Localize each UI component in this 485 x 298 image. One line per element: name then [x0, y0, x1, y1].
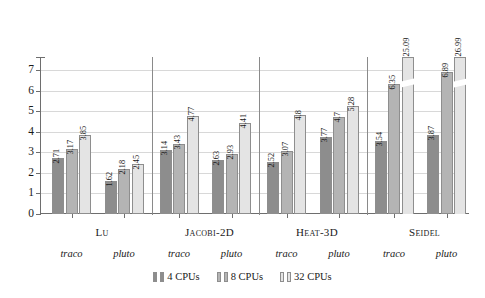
y-axis-cap [36, 57, 45, 58]
bar-value-label: 1.62 [105, 171, 113, 186]
bar-value-label: 3.87 [428, 125, 436, 140]
bar [79, 135, 91, 214]
bar [427, 135, 439, 214]
y-axis-tick-label: 4 [28, 126, 34, 138]
legend-label: 8 CPUs [231, 272, 263, 283]
group-separator [259, 57, 260, 215]
gridline [40, 70, 463, 71]
x-axis-tick [232, 214, 233, 218]
y-axis-tick-label: 3 [28, 146, 34, 158]
bar [239, 123, 251, 214]
group-separator [152, 57, 153, 215]
x-axis-sub-label-pluto: pluto [206, 248, 258, 259]
bar [281, 151, 293, 214]
bar-value-label: 4.7 [334, 112, 342, 122]
bar-value-label: 2.52 [268, 153, 276, 168]
bar [441, 72, 453, 214]
bar [187, 116, 199, 214]
legend-swatch [287, 272, 291, 282]
bar-value-label: 26.99 [455, 38, 463, 57]
legend-swatch [280, 272, 284, 282]
bar [388, 84, 400, 214]
bar [66, 149, 78, 214]
x-axis-sub-label-pluto: pluto [98, 248, 150, 259]
x-axis-sub-label-traco: traco [46, 248, 98, 259]
bar-value-label: 3.77 [320, 127, 328, 142]
legend-label: 4 CPUs [167, 272, 199, 283]
x-axis-sub-label-traco: traco [153, 248, 205, 259]
bar-value-label: 3.54 [375, 132, 383, 147]
bar [320, 137, 332, 214]
bar [294, 115, 306, 214]
bar-value-label: 2.45 [132, 154, 140, 169]
legend-item: 8 CPUs [217, 272, 263, 283]
legend-label: 32 CPUs [294, 272, 332, 283]
bar [132, 164, 144, 214]
bar-value-label: 6.89 [441, 63, 449, 78]
group-separator [367, 57, 368, 215]
x-axis-tick [394, 214, 395, 218]
bar-value-label: 3.07 [281, 142, 289, 157]
bar-value-label: 6.35 [389, 74, 397, 89]
legend-swatch [224, 272, 228, 282]
bar [173, 144, 185, 214]
bar [212, 160, 224, 214]
chart-legend: 4 CPUs8 CPUs32 CPUs [0, 272, 485, 283]
bar-value-label: 4.41 [240, 114, 248, 129]
bar-value-label: 2.18 [119, 160, 127, 175]
bar-value-label: 4.8 [295, 110, 303, 120]
y-axis-line [40, 57, 41, 215]
x-axis-sub-label-traco: traco [368, 248, 420, 259]
bar [52, 158, 64, 214]
bar-value-label: 3.85 [80, 126, 88, 141]
legend-item: 4 CPUs [153, 272, 199, 283]
bar-value-label: 5.28 [347, 96, 355, 111]
bar [118, 169, 130, 214]
legend-swatch [153, 272, 157, 282]
legend-item: 32 CPUs [280, 272, 332, 283]
legend-swatch [217, 272, 221, 282]
bar-value-label: 3.17 [66, 140, 74, 155]
x-axis-tick [447, 214, 448, 218]
y-axis-tick-label: 5 [28, 105, 34, 117]
bar-value-label: 2.63 [213, 151, 221, 166]
x-axis-sub-label-traco: traco [261, 248, 313, 259]
bar [267, 162, 279, 214]
x-axis-group-label: Jacobi-2D [148, 226, 272, 238]
legend-swatch [160, 272, 164, 282]
bar-value-label: 2.71 [53, 149, 61, 164]
bar-value-label: 3.43 [174, 134, 182, 149]
chart-figure: 012345672.713.173.851.622.182.453.143.43… [0, 0, 485, 298]
x-axis-group-label: Heat-3D [255, 226, 379, 238]
y-axis-tick-label: 7 [28, 64, 34, 76]
y-axis-tick-label: 0 [28, 208, 34, 220]
x-axis-group-label: Seidel [363, 226, 485, 238]
y-axis-tick-label: 2 [28, 167, 34, 179]
x-axis-tick [124, 214, 125, 218]
plot-area: 012345672.713.173.851.622.182.453.143.43… [40, 62, 463, 214]
x-axis-tick [179, 214, 180, 218]
bar [347, 106, 359, 214]
bar [226, 154, 238, 214]
y-axis-tick-label: 1 [28, 187, 34, 199]
bar [375, 141, 387, 214]
x-axis-tick [339, 214, 340, 218]
bar-value-label: 2.93 [226, 145, 234, 160]
bar [160, 150, 172, 214]
bar [333, 117, 345, 214]
bar-value-label: 25.09 [402, 38, 410, 57]
bar-value-label: 3.14 [160, 140, 168, 155]
y-axis-tick-label: 6 [28, 85, 34, 97]
x-axis-tick [287, 214, 288, 218]
x-axis-sub-label-pluto: pluto [421, 248, 473, 259]
bar-value-label: 4.77 [187, 107, 195, 122]
x-axis-sub-label-pluto: pluto [313, 248, 365, 259]
x-axis-tick [72, 214, 73, 218]
x-axis-group-label: Lu [40, 226, 164, 238]
